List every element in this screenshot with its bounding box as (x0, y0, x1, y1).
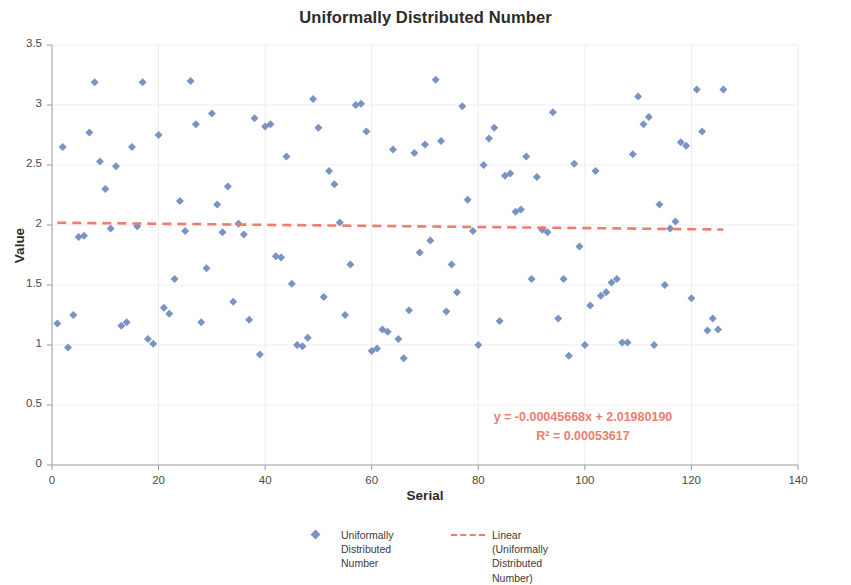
regression-equation: y = -0.00045668x + 2.01980190 (413, 408, 753, 427)
data-point (410, 149, 418, 157)
data-point (394, 335, 402, 343)
data-point (160, 304, 168, 312)
legend-label-trendline-line3: Number) (492, 571, 576, 585)
regression-line (57, 223, 723, 230)
data-point (341, 311, 349, 319)
data-point (69, 311, 77, 319)
data-point (229, 298, 237, 306)
y-axis-label: Value (12, 216, 27, 276)
data-point (485, 135, 493, 143)
data-point (309, 95, 317, 103)
data-point (661, 281, 669, 289)
x-tick-label: 0 (32, 474, 72, 486)
data-point (224, 183, 232, 191)
regression-annotation: y = -0.00045668x + 2.01980190 R² = 0.000… (413, 408, 753, 446)
data-point (639, 120, 647, 128)
y-tick-label: 3 (8, 97, 42, 109)
data-point (219, 228, 227, 236)
data-point (714, 325, 722, 333)
legend-label-trendline-line2: Distributed (492, 556, 576, 570)
data-point (560, 275, 568, 283)
legend-entry-trendline[interactable]: Linear (Uniformally Distributed Number) (451, 528, 576, 585)
data-point (522, 153, 530, 161)
axis-ticks (47, 45, 798, 470)
data-point (586, 301, 594, 309)
x-tick-label: 40 (245, 474, 285, 486)
data-point (59, 143, 67, 151)
data-point (155, 131, 163, 139)
data-point (298, 342, 306, 350)
data-point (101, 185, 109, 193)
data-point (250, 114, 258, 122)
data-point (357, 100, 365, 108)
y-tick-label: 1 (8, 337, 42, 349)
x-tick-label: 60 (352, 474, 392, 486)
data-point (144, 335, 152, 343)
data-point (112, 162, 120, 170)
data-point (208, 109, 216, 117)
data-point (554, 315, 562, 323)
data-point (533, 173, 541, 181)
legend-key-marker (300, 529, 334, 541)
legend-label-scatter: Uniformally Distributed Number (341, 528, 425, 571)
data-point (464, 196, 472, 204)
data-point (416, 249, 424, 257)
data-point (91, 78, 99, 86)
data-point (703, 327, 711, 335)
data-point (389, 145, 397, 153)
y-tick-label: 0 (8, 457, 42, 469)
data-point (314, 124, 322, 132)
x-tick-label: 20 (139, 474, 179, 486)
data-point (282, 153, 290, 161)
data-point (421, 141, 429, 149)
data-point (346, 261, 354, 269)
data-point (645, 113, 653, 121)
data-point (634, 93, 642, 101)
y-tick-label: 3.5 (8, 37, 42, 49)
data-point (437, 137, 445, 145)
diamond-marker-icon (311, 530, 321, 540)
data-point (442, 307, 450, 315)
data-point (197, 318, 205, 326)
trendline (57, 223, 723, 230)
data-point (325, 167, 333, 175)
data-point (53, 319, 61, 327)
y-tick-label: 2.5 (8, 157, 42, 169)
data-point (213, 201, 221, 209)
data-point (240, 231, 248, 239)
data-point (698, 127, 706, 135)
data-point (304, 334, 312, 342)
legend-label-scatter-line1: Uniformally (341, 528, 425, 542)
data-point (288, 280, 296, 288)
data-point (570, 160, 578, 168)
data-point (80, 232, 88, 240)
data-point (709, 315, 717, 323)
data-point (687, 294, 695, 302)
x-tick-label: 120 (671, 474, 711, 486)
data-point (671, 217, 679, 225)
data-point (171, 275, 179, 283)
legend-entry-scatter[interactable]: Uniformally Distributed Number (300, 528, 425, 585)
data-point (474, 341, 482, 349)
legend-label-trendline-line1: Linear (Uniformally (492, 528, 576, 556)
data-point (362, 127, 370, 135)
data-point (480, 161, 488, 169)
data-point (693, 85, 701, 93)
data-point (187, 77, 195, 85)
data-point (432, 76, 440, 84)
data-point (655, 201, 663, 209)
x-tick-label: 140 (778, 474, 818, 486)
data-point (458, 102, 466, 110)
data-point (330, 180, 338, 188)
legend-key-line (451, 529, 485, 541)
data-point (85, 129, 93, 137)
data-points (53, 76, 727, 362)
data-point (496, 317, 504, 325)
x-tick-label: 100 (565, 474, 605, 486)
data-point (490, 124, 498, 132)
y-tick-label: 0.5 (8, 397, 42, 409)
y-tick-label: 1.5 (8, 277, 42, 289)
data-point (549, 108, 557, 116)
legend-label-scatter-line2: Distributed (341, 542, 425, 556)
